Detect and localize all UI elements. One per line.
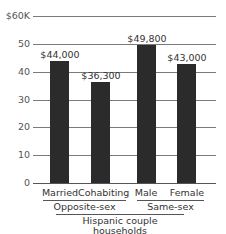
y-tick-0: 0 — [0, 178, 30, 188]
value-label-male: $49,800 — [117, 34, 177, 44]
gridline-50 — [33, 44, 216, 45]
category-label-female: Female — [166, 188, 208, 198]
gridline-60k — [33, 16, 216, 17]
value-label-female: $43,000 — [157, 53, 217, 63]
bar-female — [177, 64, 196, 183]
group-label-opposite-sex: Opposite-sex — [43, 202, 126, 212]
group-label-same-sex: Same-sex — [137, 202, 204, 212]
value-label-cohabiting: $36,300 — [71, 71, 131, 81]
value-label-married: $44,000 — [30, 50, 90, 60]
y-tick-50: 50 — [0, 39, 30, 49]
bar-male — [137, 45, 156, 183]
category-label-male: Male — [126, 188, 166, 198]
bar-cohabiting — [91, 82, 110, 183]
y-tick-10: 10 — [0, 150, 30, 160]
y-tick-20: 20 — [0, 122, 30, 132]
category-label-married: Married — [38, 188, 82, 198]
baseline-0 — [33, 183, 216, 184]
y-tick-60k: $60K — [0, 11, 30, 21]
x-axis-label: Hispanic couple households — [56, 216, 184, 234]
y-tick-30: 30 — [0, 95, 30, 105]
bar-chart: $60K 50 40 30 20 10 0 $44,000 $36,300 $4… — [0, 0, 226, 234]
bar-married — [50, 61, 69, 183]
y-tick-40: 40 — [0, 67, 30, 77]
category-label-cohabiting: Cohabiting — [78, 188, 124, 198]
